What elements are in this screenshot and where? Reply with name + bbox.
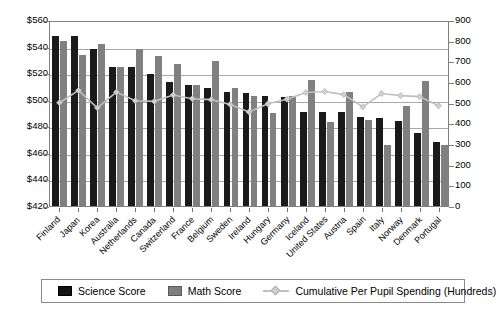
y-tick-right <box>449 42 454 43</box>
legend-item-math: Math Score <box>168 285 242 297</box>
spending-marker <box>132 98 138 104</box>
legend-item-science: Science Score <box>58 285 146 297</box>
x-tick <box>230 208 231 212</box>
y-tick-right <box>449 62 454 63</box>
x-tick <box>135 208 136 212</box>
x-tick <box>249 208 250 212</box>
y-tick-label-left: $500 <box>4 95 48 105</box>
spending-marker <box>246 109 252 115</box>
x-tick <box>173 208 174 212</box>
spending-marker <box>227 101 233 107</box>
x-tick <box>439 208 440 212</box>
x-tick <box>382 208 383 212</box>
x-tick <box>363 208 364 212</box>
x-axis-label: Spain <box>345 215 368 238</box>
y-tick-label-right: 500 <box>455 98 499 108</box>
y-tick-label-left: $420 <box>4 201 48 211</box>
y-tick-right <box>449 207 454 208</box>
x-tick <box>116 208 117 212</box>
spending-marker <box>322 89 328 95</box>
square-dark-icon <box>58 286 72 296</box>
x-axis-label: Finland <box>35 215 62 242</box>
y-tick-label-left: $440 <box>4 174 48 184</box>
y-tick-right <box>449 145 454 146</box>
spending-marker <box>189 96 195 102</box>
y-tick-label-right: 800 <box>455 36 499 46</box>
spending-marker <box>303 90 309 96</box>
x-tick <box>344 208 345 212</box>
y-tick-right <box>449 124 454 125</box>
legend-item-spending: Cumulative Per Pupil Spending (Hundreds) <box>263 285 496 297</box>
chart-legend: Science Score Math Score Cumulative Per … <box>41 279 465 303</box>
x-tick <box>401 208 402 212</box>
x-tick <box>306 208 307 212</box>
y-tick-right <box>449 186 454 187</box>
y-tick-label-left: $480 <box>4 121 48 131</box>
y-tick-label-right: 300 <box>455 139 499 149</box>
y-tick-label-right: 100 <box>455 180 499 190</box>
x-axis-categories: FinlandJapanKoreaAustraliaNetherlandsCan… <box>49 208 449 270</box>
y-tick-label-right: 600 <box>455 77 499 87</box>
y-tick-label-left: $460 <box>4 148 48 158</box>
spending-marker <box>170 92 176 98</box>
y-tick-right <box>449 166 454 167</box>
x-tick <box>325 208 326 212</box>
y-tick-label-right: 200 <box>455 160 499 170</box>
x-tick <box>420 208 421 212</box>
y-tick-label-left: $540 <box>4 42 48 52</box>
x-tick <box>154 208 155 212</box>
spending-marker <box>208 97 214 103</box>
y-tick-right <box>449 83 454 84</box>
x-tick <box>78 208 79 212</box>
x-axis-label: Japan <box>58 215 82 239</box>
square-gray-icon <box>168 286 182 296</box>
plot-area <box>49 21 449 207</box>
spending-marker <box>417 94 423 100</box>
y-tick-label-left: $560 <box>4 15 48 25</box>
y-tick-label-right: 400 <box>455 118 499 128</box>
x-tick <box>287 208 288 212</box>
legend-label-math: Math Score <box>188 285 242 297</box>
legend-label-science: Science Score <box>78 285 146 297</box>
x-tick <box>268 208 269 212</box>
y-tick-label-right: 0 <box>455 201 499 211</box>
y-tick-label-right: 900 <box>455 15 499 25</box>
x-tick <box>192 208 193 212</box>
legend-label-spending: Cumulative Per Pupil Spending (Hundreds) <box>295 285 496 297</box>
y-tick-label-left: $520 <box>4 68 48 78</box>
spending-marker <box>436 103 442 109</box>
y-tick-label-right: 700 <box>455 56 499 66</box>
chart-container: $420$440$460$480$500$520$540$560 0100200… <box>0 0 504 313</box>
x-tick <box>211 208 212 212</box>
x-tick <box>59 208 60 212</box>
spending-marker <box>284 96 290 102</box>
spending-marker <box>398 93 404 99</box>
x-tick <box>97 208 98 212</box>
y-tick-right <box>449 104 454 105</box>
spending-marker <box>151 98 157 104</box>
line-diamond-icon <box>263 286 289 296</box>
y-tick-right <box>449 21 454 22</box>
spending-line-layer <box>50 22 448 206</box>
spending-marker <box>265 101 271 107</box>
